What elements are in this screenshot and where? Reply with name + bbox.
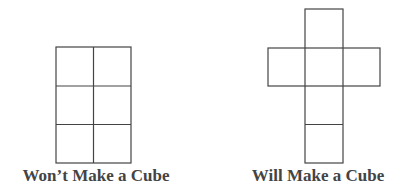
- cube-net-caption: Will Make a Cube: [230, 166, 406, 186]
- cube-net: [268, 9, 380, 163]
- diagram-canvas: [0, 0, 406, 192]
- cube-net-horizontal-arm: [268, 48, 380, 86]
- non-cube-net: [56, 47, 131, 163]
- non-cube-net-caption: Won’t Make a Cube: [6, 166, 186, 186]
